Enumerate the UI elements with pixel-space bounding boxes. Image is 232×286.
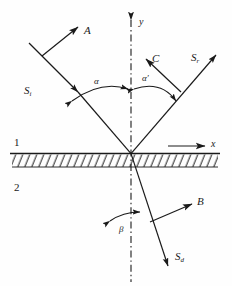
vector-a-label: A <box>84 25 91 36</box>
diagram-canvas <box>0 0 232 286</box>
region-2-label: 2 <box>14 182 20 193</box>
region-1-label: 1 <box>14 137 20 148</box>
physics-diagram: A y C Sr Si α α′ 1 x 2 B β Sd <box>0 0 232 286</box>
angle-incidence-label: α <box>94 77 99 86</box>
angle-refraction-arc <box>110 212 140 221</box>
angle-reflection-label: α′ <box>142 74 149 83</box>
incident-ray-label: Si <box>24 85 31 98</box>
angle-reflection-arc <box>134 86 176 101</box>
angle-incidence-arc <box>72 86 128 101</box>
vector-a-arrow <box>42 27 78 56</box>
refracted-ray-label: Sd <box>175 251 184 264</box>
reflected-ray-label: Sr <box>191 52 199 65</box>
interface-boundary <box>10 154 220 167</box>
x-axis-label: x <box>211 139 215 149</box>
vector-b-label: B <box>197 196 204 207</box>
refracted-ray <box>131 154 168 266</box>
incident-ray <box>29 43 131 154</box>
y-axis-label: y <box>139 17 143 27</box>
vector-c-label: C <box>152 53 159 64</box>
vector-b-arrow <box>150 204 192 222</box>
angle-refraction-label: β <box>119 225 123 234</box>
reflected-ray <box>131 55 216 154</box>
